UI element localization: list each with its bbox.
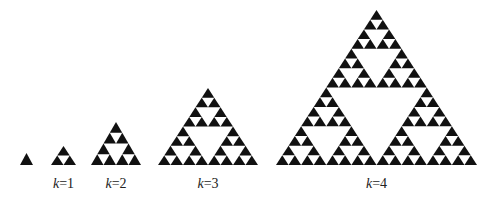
sierpinski-triangle-k3 — [158, 88, 258, 165]
label-k1: k=1 — [53, 176, 74, 192]
label-k4: k=4 — [366, 176, 387, 192]
label-equals: = — [59, 176, 67, 191]
sierpinski-triangle-k0 — [20, 153, 33, 165]
label-value: 1 — [67, 176, 74, 191]
sierpinski-triangle-k2 — [91, 122, 141, 165]
label-equals: = — [372, 176, 380, 191]
label-k3: k=3 — [197, 176, 218, 192]
label-equals: = — [204, 176, 212, 191]
sierpinski-figure — [0, 0, 495, 202]
label-value: 2 — [120, 176, 127, 191]
label-value: 4 — [380, 176, 387, 191]
label-value: 3 — [212, 176, 219, 191]
label-equals: = — [112, 176, 120, 191]
sierpinski-triangle-k1 — [51, 146, 76, 165]
sierpinski-triangle-k4 — [276, 10, 477, 165]
label-k2: k=2 — [105, 176, 126, 192]
